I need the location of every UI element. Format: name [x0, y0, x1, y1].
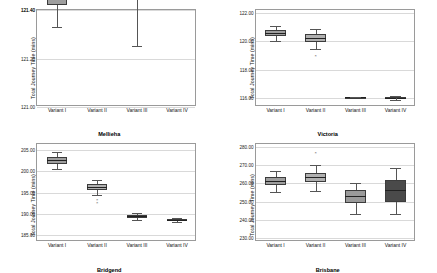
median-line — [265, 181, 286, 182]
x-tick-label: Variant IV — [385, 105, 407, 113]
median-line — [265, 33, 286, 34]
y-tick-label: 121.40 — [21, 8, 37, 13]
whisker-cap-upper — [350, 183, 360, 184]
axes-frame: 121.40121.40121.20121.00Variant IVariant… — [36, 9, 196, 106]
boxplot-grid: Total Journey Time (mins) 121.40121.4012… — [0, 0, 437, 273]
median-line — [385, 190, 406, 191]
y-tick-label: 116.00 — [240, 96, 256, 101]
axes-frame: 280.00270.00260.00250.00240.00230.00Vari… — [255, 143, 415, 241]
median-line — [305, 177, 326, 178]
whisker-cap-lower — [310, 191, 320, 192]
median-line — [47, 160, 68, 161]
whisker-lower — [137, 0, 138, 46]
whisker-cap-lower — [390, 100, 400, 101]
whisker-cap-upper — [390, 96, 400, 97]
panel-mellieha: Total Journey Time (mins) 121.40121.4012… — [0, 0, 219, 137]
whisker-cap-upper — [92, 180, 102, 181]
y-tick-label: 185.00 — [21, 233, 37, 238]
y-tick-label: 260.00 — [239, 181, 255, 186]
median-line — [345, 196, 366, 197]
whisker-lower — [356, 203, 357, 214]
whisker-cap-lower — [92, 195, 102, 196]
whisker-cap-lower — [350, 97, 360, 98]
y-tick-label: 122.00 — [239, 10, 255, 15]
x-tick-label: Variant I — [266, 240, 284, 248]
whisker-cap-upper — [172, 218, 182, 219]
whisker-cap-lower — [132, 46, 142, 47]
x-tick-label: Variant IV — [166, 240, 188, 248]
gridline — [256, 13, 414, 14]
x-tick-label: Variant III — [126, 105, 147, 113]
whisker-cap-lower — [52, 27, 62, 28]
gridline — [37, 193, 195, 194]
plot-area-victoria: 122.00120.00118.00116.00Variant IVariant… — [219, 0, 437, 137]
x-tick-label: Variant I — [48, 240, 66, 248]
x-tick-label: Variant II — [306, 105, 326, 113]
panel-bridgend: Total Journey Time (mins) 205.00200.0019… — [0, 137, 219, 273]
gridline — [37, 235, 195, 236]
y-tick-label: 190.00 — [21, 211, 37, 216]
median-line — [305, 38, 326, 39]
outlier-marker — [96, 202, 98, 204]
x-tick-label: Variant I — [48, 105, 66, 113]
x-tick-label: Variant II — [306, 240, 326, 248]
panel-brisbane: Total Journey Time (mins) 280.00270.0026… — [219, 137, 437, 273]
gridline — [256, 165, 414, 166]
whisker-cap-upper — [310, 29, 320, 30]
whisker-cap-upper — [270, 171, 280, 172]
gridline — [37, 59, 195, 60]
whisker-lower — [396, 202, 397, 215]
x-tick-label: Variant II — [87, 240, 107, 248]
y-tick-label: 121.00 — [21, 105, 37, 110]
axes-frame: 122.00120.00118.00116.00Variant IVariant… — [255, 9, 415, 106]
gridline — [256, 202, 414, 203]
outlier-marker — [315, 152, 317, 154]
gridline — [256, 147, 414, 148]
y-tick-label: 280.00 — [239, 145, 255, 150]
whisker-cap-upper — [390, 168, 400, 169]
whisker-lower — [57, 5, 58, 27]
whisker-upper — [316, 165, 317, 172]
x-tick-label: Variant III — [126, 240, 147, 248]
outlier-marker — [315, 55, 317, 57]
gridline — [256, 70, 414, 71]
median-line — [87, 187, 108, 188]
y-tick-label: 121.20 — [21, 56, 37, 61]
whisker-cap-lower — [390, 214, 400, 215]
whisker-cap-lower — [52, 169, 62, 170]
panel-victoria: Total Journey Time (mins) 122.00120.0011… — [219, 0, 437, 137]
whisker-cap-lower — [270, 192, 280, 193]
y-tick-label: 120.00 — [239, 39, 255, 44]
panel-title: Brisbane — [219, 267, 437, 273]
whisker-cap-lower — [310, 49, 320, 50]
whisker-upper — [396, 168, 397, 180]
whisker-cap-upper — [52, 152, 62, 153]
y-tick-label: 270.00 — [239, 163, 255, 168]
y-tick-label: 118.00 — [240, 67, 256, 72]
gridline — [37, 171, 195, 172]
y-tick-label: 200.00 — [21, 169, 37, 174]
x-tick-label: Variant I — [266, 105, 284, 113]
whisker-cap-upper — [310, 165, 320, 166]
whisker-cap-lower — [350, 214, 360, 215]
whisker-cap-upper — [132, 213, 142, 214]
whisker-cap-lower — [270, 41, 280, 42]
panel-title: Bridgend — [0, 267, 219, 273]
gridline — [37, 214, 195, 215]
whisker-cap-lower — [172, 222, 182, 223]
x-tick-label: Variant III — [345, 105, 366, 113]
plot-area-bridgend: 205.00200.00195.00190.00185.00Variant IV… — [0, 137, 219, 273]
x-tick-label: Variant III — [345, 240, 366, 248]
gridline — [37, 10, 195, 11]
x-tick-label: Variant IV — [166, 105, 188, 113]
y-tick-label: 240.00 — [239, 217, 255, 222]
gridline — [256, 220, 414, 221]
plot-area-brisbane: 280.00270.00260.00250.00240.00230.00Vari… — [219, 137, 437, 273]
plot-area-mellieha: 121.40121.40121.20121.00Variant IVariant… — [0, 0, 219, 137]
x-tick-label: Variant II — [87, 105, 107, 113]
y-tick-label: 205.00 — [21, 147, 37, 152]
whisker-lower — [316, 182, 317, 191]
whisker-cap-lower — [132, 220, 142, 221]
y-tick-label: 195.00 — [21, 190, 37, 195]
y-tick-label: 250.00 — [239, 199, 255, 204]
